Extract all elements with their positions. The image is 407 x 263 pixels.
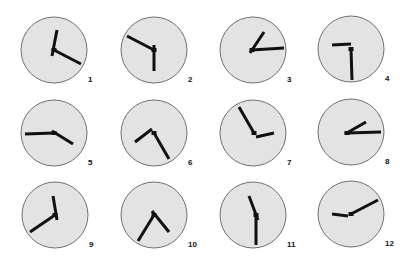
clock-hub (252, 131, 257, 135)
clock-number-label: 1 (88, 75, 93, 84)
clock-hub (250, 48, 255, 52)
clock-2: 2 (121, 17, 193, 84)
clock-hub (152, 131, 157, 135)
clock-12: 12 (318, 181, 394, 248)
clock-number-label: 11 (287, 240, 296, 249)
minute-hand (351, 49, 352, 80)
clock-hub (52, 48, 57, 52)
clock-hub (349, 212, 354, 216)
clock-number-label: 5 (88, 158, 93, 167)
clock-hub (53, 213, 58, 217)
clock-hub (152, 213, 157, 217)
clock-number-label: 9 (89, 240, 94, 249)
clock-hub (349, 47, 354, 51)
clock-number-label: 10 (188, 240, 197, 249)
clock-face (220, 182, 286, 248)
clock-3: 3 (220, 17, 292, 84)
hour-hand (332, 214, 348, 216)
minute-hand (347, 132, 381, 133)
clock-number-label: 6 (188, 158, 193, 167)
clock-6: 6 (121, 100, 193, 167)
clock-1: 1 (21, 17, 93, 84)
clock-number-label: 4 (385, 74, 390, 83)
clock-10: 10 (121, 182, 197, 249)
hour-hand (332, 44, 351, 45)
clock-hub (52, 131, 57, 135)
clock-8: 8 (318, 99, 390, 166)
minute-hand (25, 133, 54, 134)
clock-number-label: 12 (385, 239, 394, 248)
clock-hub (345, 131, 350, 135)
clock-hub (152, 48, 157, 52)
clock-grid-figure: 123456789101112 (0, 0, 407, 263)
minute-hand (252, 48, 284, 50)
clock-number-label: 7 (287, 158, 292, 167)
clock-7: 7 (220, 100, 292, 167)
clock-4: 4 (318, 16, 390, 83)
clock-number-label: 2 (188, 75, 193, 84)
clock-11: 11 (220, 182, 296, 249)
clock-9: 9 (22, 182, 94, 249)
clock-number-label: 8 (385, 157, 390, 166)
clock-hub (254, 213, 259, 217)
clock-5: 5 (21, 100, 93, 167)
clock-number-label: 3 (287, 75, 292, 84)
